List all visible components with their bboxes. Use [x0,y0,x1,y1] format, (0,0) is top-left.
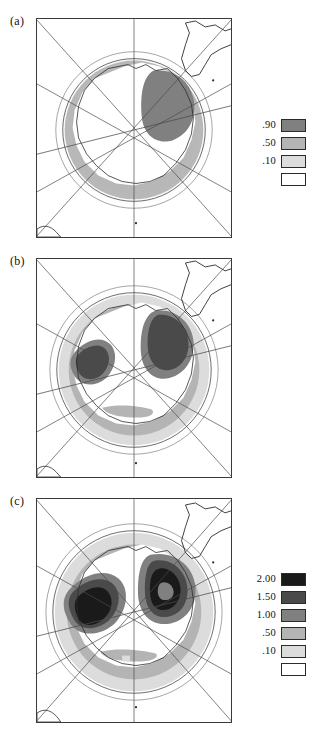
legend-swatch [281,155,306,168]
panel-c-map-graphic [37,499,231,722]
figure-panel-a: (a) [0,0,309,245]
legend-swatch [281,119,306,132]
figure-panel-b: (b) [0,240,309,485]
panel-b-map-graphic [37,259,231,477]
legend-level-label: .90 [246,120,281,131]
legend-swatch [281,137,306,150]
panel-b-map [36,258,232,478]
legend-row: .50 [246,134,306,152]
panel-a-label: (a) [10,14,24,29]
panel-a-map-graphic [37,19,231,237]
legend-level-label: .10 [246,156,281,167]
panel-c-label: (c) [10,494,24,509]
panel-b-label: (b) [10,254,25,269]
panel-a-map [36,18,232,238]
panel-c-map [36,498,232,723]
panel-a-legend: .90 .50 .10 . [246,116,306,188]
legend-level-label: .50 [246,138,281,149]
legend-row: . [246,170,306,188]
legend-row: .90 [246,116,306,134]
figure-panel-c: (c) [0,480,309,730]
legend-row: .10 [246,152,306,170]
legend-swatch [281,173,306,186]
